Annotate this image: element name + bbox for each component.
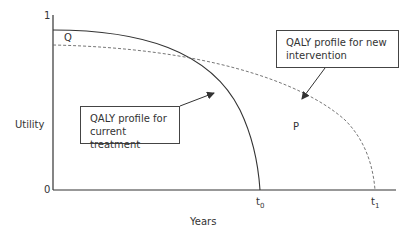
callout-line-1: QALY profile for: [90, 112, 179, 125]
x-tick-t1: t1: [371, 197, 379, 207]
callout-line-2: intervention: [286, 49, 398, 62]
y-tick-top: 1: [44, 11, 50, 21]
region-p-label: P: [293, 122, 299, 132]
x-tick-t0: t0: [256, 197, 264, 207]
region-q-label: Q: [64, 33, 72, 43]
current-treatment-callout: QALY profile for current treatment: [80, 106, 180, 144]
y-tick-bottom: 0: [44, 185, 50, 195]
x-axis-label: Years: [190, 217, 216, 227]
new-intervention-arrow: [302, 68, 325, 99]
current-treatment-arrow: [180, 93, 214, 106]
t0-sub: 0: [260, 202, 264, 210]
callout-line-1: QALY profile for new: [286, 36, 398, 49]
y-axis-label: Utility: [15, 120, 44, 130]
new-intervention-callout: QALY profile for new intervention: [276, 30, 399, 68]
callout-line-2: current treatment: [90, 125, 179, 151]
t1-sub: 1: [375, 202, 379, 210]
